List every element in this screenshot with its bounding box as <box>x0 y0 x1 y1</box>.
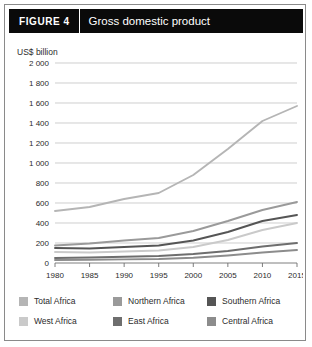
legend-item-central-africa[interactable]: Central Africa <box>207 316 303 326</box>
legend-swatch-icon <box>19 297 28 306</box>
y-axis-tick-label: 400 <box>36 219 50 228</box>
y-axis-tick-label: 1 400 <box>29 119 50 128</box>
x-axis-tick-label: 2010 <box>254 271 272 280</box>
legend-item-southern-africa[interactable]: Southern Africa <box>207 296 303 306</box>
legend-label: Southern Africa <box>222 296 280 306</box>
y-axis-tick-label: 2 000 <box>29 59 50 68</box>
legend-item-total-africa[interactable]: Total Africa <box>19 296 113 306</box>
legend-swatch-icon <box>207 317 216 326</box>
legend-label: Central Africa <box>222 316 273 326</box>
x-axis-tick-label: 1980 <box>46 271 64 280</box>
figure-tag: FIGURE4 <box>9 16 79 27</box>
y-axis-tick-label: 800 <box>36 179 50 188</box>
legend-row: Total AfricaNorthern AfricaSouthern Afri… <box>19 291 303 311</box>
legend-swatch-icon <box>207 297 216 306</box>
legend-label: Northern Africa <box>128 296 185 306</box>
series-line-east-africa <box>55 243 297 258</box>
legend-item-west-africa[interactable]: West Africa <box>19 316 113 326</box>
series-line-northern-africa <box>55 202 297 246</box>
x-axis-tick-label: 1985 <box>81 271 99 280</box>
x-axis-tick-label: 1990 <box>115 271 133 280</box>
series-line-total-africa <box>55 106 297 211</box>
legend-swatch-icon <box>113 297 122 306</box>
legend-label: East Africa <box>128 316 169 326</box>
legend-row: West AfricaEast AfricaCentral Africa <box>19 311 303 331</box>
y-axis-tick-label: 200 <box>36 239 50 248</box>
legend-label: Total Africa <box>34 296 76 306</box>
chart-plot-area: US$ billion 2 0001 8001 6001 4001 2001 0… <box>9 37 303 285</box>
legend-swatch-icon <box>19 317 28 326</box>
y-axis-tick-label: 0 <box>45 259 50 268</box>
x-axis-tick-label: 2015 <box>288 271 303 280</box>
chart-legend: Total AfricaNorthern AfricaSouthern Afri… <box>9 289 303 337</box>
figure-card: FIGURE4 Gross domestic product US$ billi… <box>4 4 306 341</box>
legend-item-northern-africa[interactable]: Northern Africa <box>113 296 207 306</box>
y-axis-tick-label: 1 600 <box>29 99 50 108</box>
line-chart: 2 0001 8001 6001 4001 2001 0008006004002… <box>9 37 303 285</box>
page-title: Gross domestic product <box>80 15 210 27</box>
figure-tag-word: FIGURE <box>19 16 60 27</box>
y-axis-tick-label: 1 800 <box>29 79 50 88</box>
y-axis-tick-label: 1 000 <box>29 159 50 168</box>
x-axis-tick-label: 2005 <box>219 271 237 280</box>
x-axis-tick-label: 2000 <box>184 271 202 280</box>
legend-item-east-africa[interactable]: East Africa <box>113 316 207 326</box>
figure-header: FIGURE4 Gross domestic product <box>9 9 303 33</box>
legend-swatch-icon <box>113 317 122 326</box>
figure-tag-number: 4 <box>63 16 69 27</box>
y-axis-tick-label: 1 200 <box>29 139 50 148</box>
y-axis-tick-label: 600 <box>36 199 50 208</box>
legend-label: West Africa <box>34 316 77 326</box>
x-axis-tick-label: 1995 <box>150 271 168 280</box>
